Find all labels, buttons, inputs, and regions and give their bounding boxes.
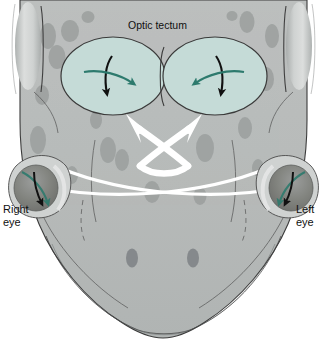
nostril-right [126,249,138,268]
figure-container: Optic tectum Right eye Left eye [0,0,327,346]
label-left-eye: Left eye [296,203,314,228]
anatomy-illustration [0,0,327,346]
label-optic-tectum: Optic tectum [128,19,187,32]
optic-tectum-lobe-right-side [61,37,165,115]
label-right-eye: Right eye [3,203,29,228]
optic-tectum-lobe-left-side [163,37,267,115]
nostril-left [187,249,199,268]
